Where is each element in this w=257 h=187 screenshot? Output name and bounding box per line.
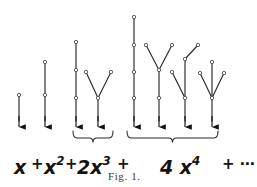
trees-group — [17, 15, 225, 127]
tree-node — [74, 40, 77, 43]
tree-node — [144, 43, 147, 46]
tree-node — [74, 68, 77, 71]
tree-path-length-1 — [17, 93, 20, 127]
tree-cherry-y-shape — [84, 70, 112, 127]
braces-group — [73, 131, 218, 143]
tree-node — [17, 93, 20, 96]
tree-node — [170, 70, 173, 73]
tree-node — [157, 68, 160, 71]
tree-node — [109, 70, 112, 73]
tree-edge — [146, 45, 159, 70]
tree-y-shape-with-extended-branch — [170, 43, 199, 127]
underbrace-2x-3 — [73, 131, 113, 143]
tree-path-length-4 — [132, 15, 135, 127]
tree-edge — [86, 72, 98, 98]
tree-node — [196, 43, 199, 46]
tree-node — [43, 93, 46, 96]
tree-diagram-canvas — [0, 0, 257, 187]
tree-node — [132, 43, 135, 46]
tree-node — [84, 70, 87, 73]
tree-edge — [159, 45, 172, 70]
tree-node — [222, 71, 225, 74]
tree-edge — [200, 73, 212, 98]
tree-node — [157, 96, 160, 99]
tree-node — [183, 96, 186, 99]
tree-node — [210, 96, 213, 99]
tree-edge — [98, 72, 111, 98]
tree-y-shape-with-long-stem — [144, 43, 173, 127]
tree-path-length-2 — [43, 60, 46, 127]
tree-node — [96, 96, 99, 99]
tree-node — [170, 43, 173, 46]
tree-node — [132, 96, 135, 99]
tree-edge — [185, 45, 198, 59]
underbrace-4x-4 — [127, 131, 218, 143]
tree-edge — [212, 73, 224, 98]
tree-node — [210, 60, 213, 63]
tree-edge — [172, 72, 185, 98]
tree-path-length-3 — [74, 40, 77, 127]
tree-node — [43, 60, 46, 63]
tree-trident-three-branches — [198, 60, 225, 127]
tree-node — [132, 70, 135, 73]
figure-page: x + x2 + 2x3 + 4 x4 + ⋯ Fig. 1. — [0, 0, 257, 187]
tree-node — [132, 15, 135, 18]
tree-node — [198, 71, 201, 74]
tree-node — [183, 57, 186, 60]
tree-node — [74, 96, 77, 99]
